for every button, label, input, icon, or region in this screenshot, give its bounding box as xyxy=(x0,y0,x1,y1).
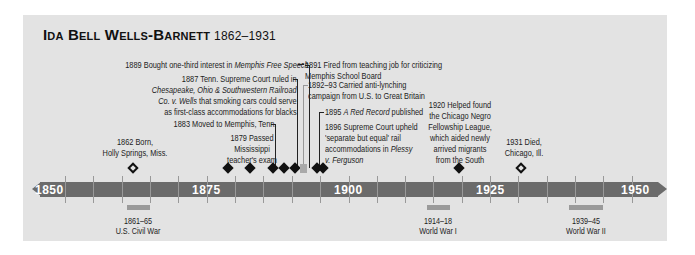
war-bar-civil xyxy=(127,205,150,210)
axis-label-1925: 1925 xyxy=(476,183,505,197)
event-1889: 1889 Bought one-third interest in Memphi… xyxy=(126,60,309,71)
leader-1887-h xyxy=(293,79,298,80)
leader-1883-h xyxy=(271,124,276,125)
timeline-arrow-right xyxy=(658,182,667,196)
event-1883: 1883 Moved to Memphis, Tenn. xyxy=(173,119,276,130)
title-name: Ida Bell Wells-Barnett xyxy=(43,26,210,43)
event-1895: 1895 A Red Record published xyxy=(325,107,423,118)
event-1931: 1931 Died,Chicago, Ill. xyxy=(495,137,552,159)
event-1862: 1862 Born,Holly Springs, Miss. xyxy=(98,137,172,159)
war-label-ww1: 1914–18World War I xyxy=(413,216,464,236)
leader-1892 xyxy=(303,85,304,167)
event-1892: 1892–93 Carried anti-lynchingcampaign fr… xyxy=(308,80,425,102)
leader-1892-h xyxy=(303,85,308,86)
war-bar-ww1 xyxy=(427,205,450,210)
title-years: 1862–1931 xyxy=(214,29,276,43)
war-label-civil: 1861–65U.S. Civil War xyxy=(113,216,164,236)
leader-1895 xyxy=(319,112,320,168)
axis-label-1875: 1875 xyxy=(192,183,221,197)
marker-1892-icon xyxy=(300,164,307,173)
axis-label-1900: 1900 xyxy=(334,183,363,197)
axis-label-1950: 1950 xyxy=(621,183,650,197)
leader-1887 xyxy=(297,79,298,168)
leader-1891-h xyxy=(298,64,304,65)
event-1920: 1920 Helped foundthe Chicago NegroFellow… xyxy=(427,100,493,166)
timeline-title: Ida Bell Wells-Barnett1862–1931 xyxy=(43,26,276,43)
event-1891: 1891 Fired from teaching job for critici… xyxy=(305,60,442,82)
event-1887: 1887 Tenn. Supreme Court ruled in Chesap… xyxy=(152,74,297,118)
war-bar-ww2 xyxy=(569,205,603,210)
axis-label-1850: 1850 xyxy=(35,183,64,197)
event-1896: 1896 Supreme Court upheld 'separate but … xyxy=(325,122,418,166)
event-1879: 1879 PassedMississippiteacher's exam xyxy=(219,133,285,166)
war-label-ww2: 1939–45World War II xyxy=(561,216,612,236)
leader-1895-h xyxy=(319,112,324,113)
